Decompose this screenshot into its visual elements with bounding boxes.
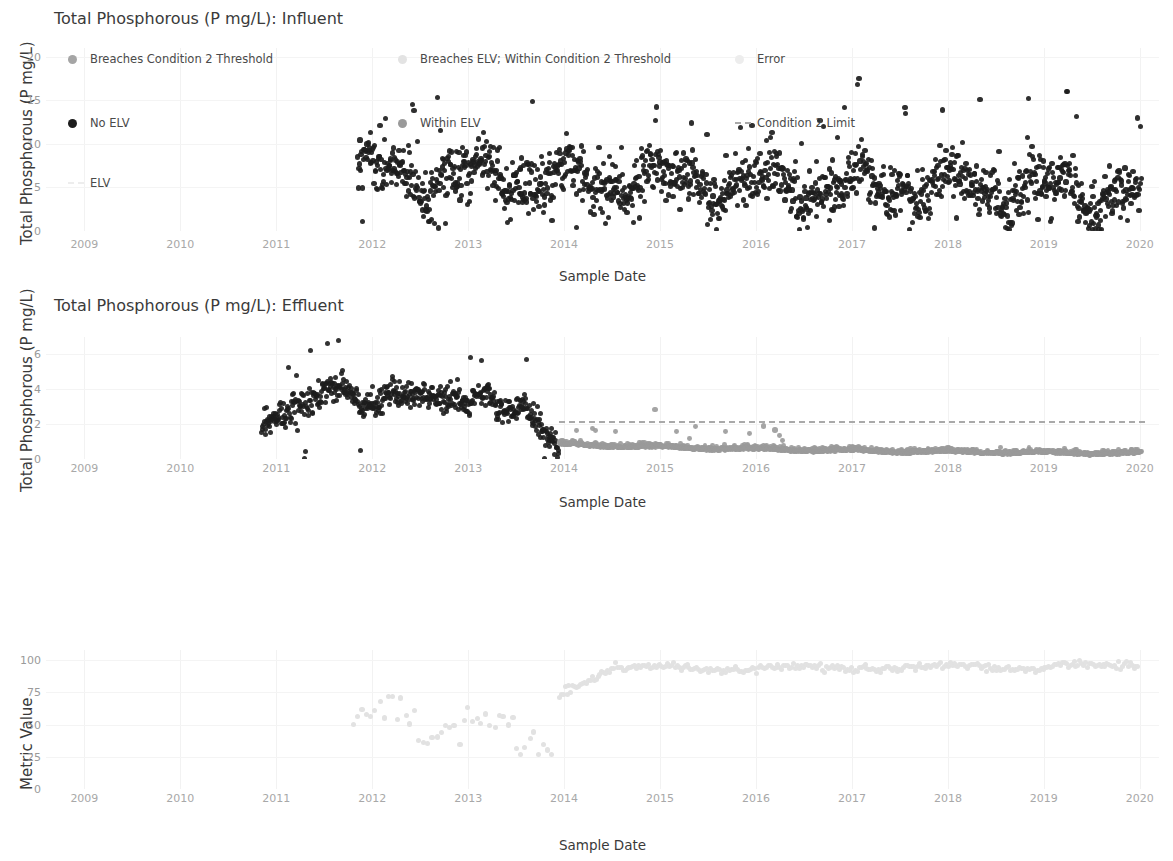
influent-point bbox=[647, 143, 652, 148]
metric-point bbox=[429, 735, 434, 740]
metric-point bbox=[506, 722, 511, 727]
influent-point bbox=[821, 204, 826, 209]
effluent-point-no-elv bbox=[340, 368, 345, 373]
x-tick-label: 2012 bbox=[358, 238, 386, 251]
influent-point bbox=[501, 177, 506, 182]
gridline-horizontal bbox=[46, 144, 1159, 145]
legend-item[interactable]: Condition 2 Limit bbox=[735, 116, 855, 130]
influent-point bbox=[1070, 153, 1075, 158]
influent-point bbox=[693, 157, 698, 162]
influent-point bbox=[992, 168, 997, 173]
influent-point bbox=[541, 210, 546, 215]
metric-point bbox=[359, 707, 364, 712]
effluent-point-no-elv bbox=[336, 338, 341, 343]
x-tick-label: 2010 bbox=[166, 238, 194, 251]
influent-point bbox=[658, 148, 663, 153]
effluent-point-within-elv bbox=[574, 428, 579, 433]
effluent-point-no-elv bbox=[263, 432, 268, 437]
influent-point bbox=[996, 149, 1001, 154]
legend-item[interactable]: Breaches ELV; Within Condition 2 Thresho… bbox=[398, 52, 671, 66]
influent-point bbox=[1062, 193, 1067, 198]
influent-point bbox=[883, 189, 888, 194]
influent-point bbox=[893, 212, 898, 217]
x-tick-label: 2014 bbox=[550, 462, 578, 475]
x-tick-label: 2012 bbox=[358, 462, 386, 475]
influent-point bbox=[669, 171, 674, 176]
effluent-point-no-elv bbox=[538, 411, 543, 416]
influent-point bbox=[421, 214, 426, 219]
chart-page: Total Phosphorous (P mg/L): Influent Tot… bbox=[0, 0, 1173, 861]
influent-point bbox=[897, 172, 902, 177]
influent-point bbox=[603, 221, 608, 226]
influent-point bbox=[1049, 161, 1054, 166]
y-tick-label: 2 bbox=[0, 418, 41, 431]
legend-item[interactable]: ELV bbox=[68, 176, 110, 190]
y-tick-label: 10 bbox=[0, 137, 41, 150]
influent-point bbox=[797, 227, 802, 231]
influent-point bbox=[538, 174, 543, 179]
y-tick-label: 50 bbox=[0, 718, 41, 731]
influent-point bbox=[581, 149, 586, 154]
effluent-point-no-elv bbox=[479, 358, 484, 363]
influent-point bbox=[504, 166, 509, 171]
legend-item[interactable]: Breaches Condition 2 Threshold bbox=[68, 52, 273, 66]
influent-point bbox=[704, 132, 709, 137]
influent-point bbox=[616, 179, 621, 184]
influent-point bbox=[391, 145, 396, 150]
influent-point bbox=[540, 161, 545, 166]
x-tick-label: 2018 bbox=[934, 238, 962, 251]
influent-point bbox=[1022, 185, 1027, 190]
x-tick-label: 2009 bbox=[70, 792, 98, 805]
influent-point bbox=[997, 189, 1002, 194]
gridline-horizontal bbox=[46, 725, 1159, 726]
influent-point bbox=[967, 167, 972, 172]
x-tick-label: 2016 bbox=[742, 238, 770, 251]
x-tick-label: 2011 bbox=[262, 792, 290, 805]
influent-point bbox=[954, 215, 959, 220]
influent-point bbox=[1023, 180, 1028, 185]
legend-item[interactable]: No ELV bbox=[68, 116, 130, 130]
influent-point bbox=[624, 210, 629, 215]
y-tick-label: 75 bbox=[0, 686, 41, 699]
legend-item[interactable]: Error bbox=[735, 52, 785, 66]
metric-point bbox=[510, 715, 515, 720]
influent-point bbox=[1012, 161, 1017, 166]
influent-point bbox=[495, 158, 500, 163]
effluent-point-no-elv bbox=[334, 398, 339, 403]
influent-point bbox=[707, 187, 712, 192]
influent-point bbox=[940, 107, 945, 112]
effluent-point-no-elv bbox=[392, 379, 397, 384]
influent-point bbox=[905, 173, 910, 178]
effluent-point-no-elv bbox=[444, 409, 449, 414]
influent-point bbox=[641, 163, 646, 168]
influent-point bbox=[1107, 163, 1112, 168]
gridline-vertical bbox=[276, 650, 277, 789]
effluent-point-no-elv bbox=[457, 387, 462, 392]
effluent-point-breach-condition2 bbox=[652, 407, 658, 413]
influent-point bbox=[590, 180, 595, 185]
influent-point bbox=[403, 181, 408, 186]
influent-point bbox=[697, 200, 702, 205]
effluent-point-no-elv bbox=[487, 386, 492, 391]
influent-point bbox=[579, 143, 584, 148]
legend-item[interactable]: Within ELV bbox=[398, 116, 481, 130]
gridline-horizontal bbox=[46, 100, 1159, 101]
gridline-vertical bbox=[180, 48, 181, 231]
gridline-vertical bbox=[372, 650, 373, 789]
x-tick-label: 2017 bbox=[838, 792, 866, 805]
influent-point bbox=[1137, 187, 1142, 192]
influent-point bbox=[1026, 210, 1031, 215]
condition-2-limit-line bbox=[559, 421, 1144, 423]
effluent-point-no-elv bbox=[397, 379, 402, 384]
influent-point bbox=[571, 178, 576, 183]
effluent-point-no-elv bbox=[455, 377, 460, 382]
influent-point bbox=[1067, 167, 1072, 172]
x-tick-label: 2015 bbox=[646, 462, 674, 475]
gridline-vertical bbox=[1140, 650, 1141, 789]
legend-label: Breaches ELV; Within Condition 2 Thresho… bbox=[420, 52, 671, 66]
gridline-vertical bbox=[660, 650, 661, 789]
influent-point bbox=[357, 161, 362, 166]
influent-point bbox=[630, 203, 635, 208]
influent-point bbox=[887, 214, 892, 219]
x-tick-label: 2016 bbox=[742, 792, 770, 805]
